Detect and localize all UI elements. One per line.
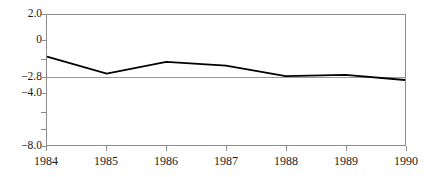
chart-title [0, 0, 424, 5]
x-axis-tick-label: 1986 [136, 154, 196, 168]
x-axis-tick-label: 1989 [316, 154, 376, 168]
data-series-line [47, 57, 405, 80]
x-axis-tick-mark [106, 146, 107, 151]
plot-area [46, 14, 406, 146]
x-axis-tick-label: 1985 [76, 154, 136, 168]
x-axis-tick-label: 1984 [16, 154, 76, 168]
y-axis-tick-label: 0 [2, 34, 42, 46]
x-axis-tick-mark [406, 146, 407, 151]
y-axis-tick-label: −2.8 [2, 71, 42, 83]
x-axis-tick-mark [226, 146, 227, 151]
x-axis-tick-mark [286, 146, 287, 151]
y-axis-tick-labels: 2.00−2.8−4.0−8.0 [0, 0, 42, 177]
x-axis-tick-label: 1988 [256, 154, 316, 168]
x-axis-tick-label: 1987 [196, 154, 256, 168]
x-axis-tick-mark [46, 146, 47, 151]
y-axis-tick-label: −4.0 [2, 87, 42, 99]
x-axis-tick-mark [166, 146, 167, 151]
chart-figure: 2.00−2.8−4.0−8.0 19841985198619871988198… [0, 0, 424, 177]
x-axis-tick-mark [346, 146, 347, 151]
y-axis-tick-label: 2.0 [2, 8, 42, 20]
plot-svg [47, 15, 405, 145]
y-axis-tick-label: −8.0 [2, 140, 42, 152]
x-axis-tick-label: 1990 [376, 154, 424, 168]
